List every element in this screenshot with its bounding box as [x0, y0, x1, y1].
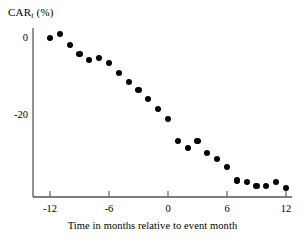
data-point: [253, 183, 259, 189]
data-point: [185, 145, 191, 151]
y-tick-label: 0: [2, 32, 28, 43]
data-point: [194, 138, 200, 144]
x-tick-label: 0: [153, 203, 183, 214]
x-tick-label: 6: [212, 203, 242, 214]
data-point: [234, 177, 240, 183]
chart-figure: CARt (%) 0 -20 -12 -6 0 6 12 Time in mon…: [0, 0, 305, 243]
y-tick-label: -20: [2, 109, 28, 120]
data-point: [76, 51, 82, 57]
x-tick-label: -6: [94, 203, 124, 214]
x-tick-label: -12: [35, 203, 65, 214]
data-point: [165, 116, 171, 122]
data-point: [135, 87, 141, 93]
x-tick-label: 12: [271, 203, 301, 214]
x-axis-label: Time in months relative to event month: [0, 220, 305, 231]
data-point: [116, 70, 122, 76]
data-point: [67, 42, 73, 48]
